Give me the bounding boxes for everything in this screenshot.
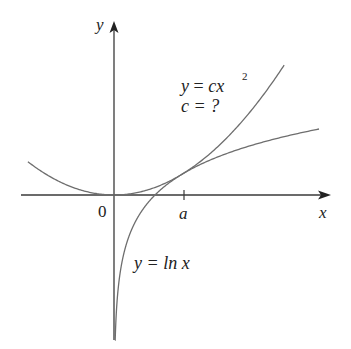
log-equation: y = ln x xyxy=(132,253,190,273)
svg-text:2: 2 xyxy=(242,70,248,82)
tick-a-label: a xyxy=(179,204,188,223)
parabola-curve xyxy=(28,65,284,195)
diagram-canvas: y x 0 a y = cx 2 c = ? y = ln x xyxy=(0,0,351,349)
y-axis-label: y xyxy=(94,15,104,34)
y-axis xyxy=(110,21,119,340)
x-axis xyxy=(21,191,331,200)
origin-label: 0 xyxy=(98,202,107,221)
parabola-equation: y = cx 2 xyxy=(179,70,248,96)
x-axis-label: x xyxy=(318,203,327,222)
log-curve xyxy=(115,129,319,340)
svg-text:y = cx: y = cx xyxy=(179,76,224,96)
parabola-question: c = ? xyxy=(181,96,219,116)
